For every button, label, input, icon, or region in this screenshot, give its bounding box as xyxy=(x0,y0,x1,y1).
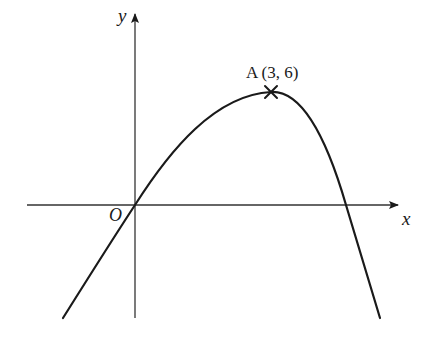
y-axis-label: y xyxy=(118,5,126,27)
point-a-label: A (3, 6) xyxy=(246,63,298,83)
curve-diagram xyxy=(0,0,430,339)
x-axis-label: x xyxy=(402,208,410,230)
origin-label: O xyxy=(109,205,122,226)
